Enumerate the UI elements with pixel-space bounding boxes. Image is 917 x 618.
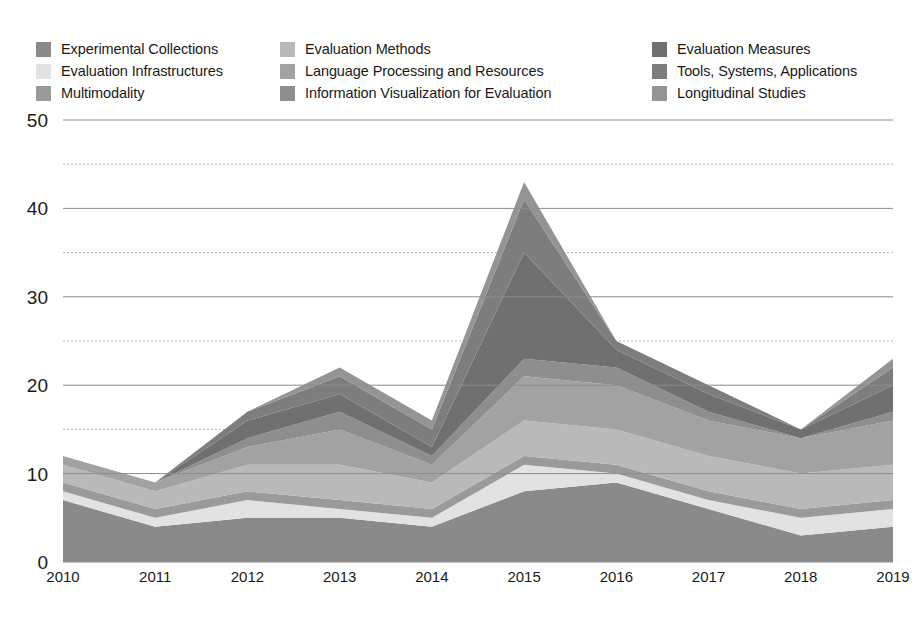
area-series-group [63, 182, 893, 562]
chart-plot-area: 01020304050 2010201120122013201420152016… [0, 0, 917, 618]
x-axis-tick-label: 2018 [784, 568, 817, 585]
stacked-area-chart: 01020304050 2010201120122013201420152016… [0, 0, 917, 618]
x-axis-tick-label: 2013 [323, 568, 356, 585]
x-axis-tick-label: 2017 [692, 568, 725, 585]
x-axis-tick-label: 2019 [876, 568, 909, 585]
x-axis-tick-label: 2014 [415, 568, 448, 585]
y-axis-tick-label: 40 [27, 198, 48, 219]
x-axis-tick-label: 2016 [600, 568, 633, 585]
x-axis-tick-label: 2012 [231, 568, 264, 585]
y-axis-tick-label: 30 [27, 287, 48, 308]
y-axis-tick-label: 10 [27, 464, 48, 485]
x-axis-tick-label: 2015 [507, 568, 540, 585]
x-axis-tick-labels: 2010201120122013201420152016201720182019 [46, 568, 909, 585]
y-axis-tick-label: 20 [27, 375, 48, 396]
x-axis-tick-label: 2011 [139, 568, 171, 585]
y-axis-tick-labels: 01020304050 [27, 110, 48, 573]
x-axis-tick-label: 2010 [46, 568, 79, 585]
y-axis-tick-label: 50 [27, 110, 48, 131]
